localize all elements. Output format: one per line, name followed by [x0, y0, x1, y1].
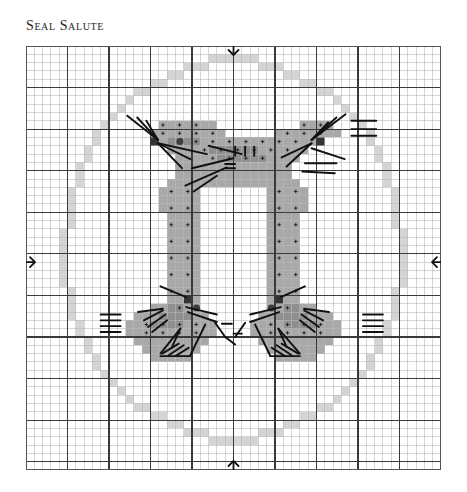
body-cell-medium [283, 295, 291, 303]
body-cell-dark [175, 312, 183, 320]
ring-cell [234, 437, 242, 445]
ring-cell [275, 428, 283, 436]
ring-cell [68, 196, 76, 204]
ring-cell [391, 312, 399, 320]
body-cell-medium [292, 246, 300, 254]
body-cell-medium [292, 354, 300, 362]
ring-cell [192, 428, 200, 436]
body-cell-medium [242, 171, 250, 179]
body-cell-medium [192, 287, 200, 295]
ring-cell [126, 96, 134, 104]
body-cell-medium [283, 262, 291, 270]
body-cell-medium [267, 212, 275, 220]
body-cell-medium [167, 262, 175, 270]
body-cell-medium [267, 279, 275, 287]
pattern-grid-svg [26, 46, 441, 470]
ring-cell [400, 279, 408, 287]
ring-cell [250, 437, 258, 445]
ring-cell [292, 420, 300, 428]
ring-cell [267, 428, 275, 436]
body-cell-black [317, 137, 325, 145]
body-cell-medium [283, 221, 291, 229]
body-cell-medium [250, 179, 258, 187]
ring-cell [151, 412, 159, 420]
ring-cell [308, 412, 316, 420]
ring-cell [350, 379, 358, 387]
ring-cell [242, 54, 250, 62]
body-cell-medium [292, 212, 300, 220]
body-cell-medium [184, 196, 192, 204]
body-cell-medium [192, 196, 200, 204]
ring-cell [242, 437, 250, 445]
ring-cell [151, 79, 159, 87]
ring-cell [225, 437, 233, 445]
body-cell-medium [159, 337, 167, 345]
ring-cell [350, 113, 358, 121]
body-cell-medium [267, 262, 275, 270]
body-cell-dark [167, 137, 175, 145]
body-cell-medium [325, 329, 333, 337]
body-cell-medium [275, 146, 283, 154]
body-cell-medium [225, 171, 233, 179]
body-cell-medium [242, 179, 250, 187]
ring-cell [366, 137, 374, 145]
ring-cell [391, 212, 399, 220]
ring-cell [76, 320, 84, 328]
ring-cell [209, 437, 217, 445]
ring-cell [300, 412, 308, 420]
body-cell-medium [184, 229, 192, 237]
ring-cell [142, 88, 150, 96]
ring-cell [366, 362, 374, 370]
body-cell-medium [258, 146, 266, 154]
body-cell-medium [250, 171, 258, 179]
ring-cell [68, 212, 76, 220]
body-cell-medium [184, 162, 192, 170]
pattern-grid[interactable] [26, 46, 441, 470]
body-cell-medium [267, 337, 275, 345]
ring-cell [317, 403, 325, 411]
ring-cell [192, 63, 200, 71]
body-cell-medium [300, 345, 308, 353]
ring-cell [59, 229, 67, 237]
ring-cell [59, 279, 67, 287]
body-cell-medium [283, 229, 291, 237]
body-cell-medium [333, 320, 341, 328]
ring-cell [383, 329, 391, 337]
ring-cell [391, 204, 399, 212]
body-cell-medium [267, 221, 275, 229]
body-cell-medium [167, 121, 175, 129]
body-cell-medium [258, 179, 266, 187]
body-cell-medium [300, 337, 308, 345]
body-cell-medium [192, 171, 200, 179]
body-cell-medium [242, 162, 250, 170]
body-cell-medium [192, 262, 200, 270]
body-cell-medium [325, 320, 333, 328]
ring-cell [68, 221, 76, 229]
ring-cell [366, 354, 374, 362]
body-cell-medium [192, 270, 200, 278]
ring-cell [341, 104, 349, 112]
ring-cell [84, 146, 92, 154]
body-cell-medium [167, 129, 175, 137]
body-cell-medium [333, 329, 341, 337]
body-cell-medium [283, 254, 291, 262]
ring-cell [159, 412, 167, 420]
body-cell-medium [308, 337, 316, 345]
body-cell-medium [267, 179, 275, 187]
ring-cell [325, 403, 333, 411]
body-cell-medium [275, 162, 283, 170]
ring-cell [184, 428, 192, 436]
body-cell-medium [275, 196, 283, 204]
body-cell-medium [283, 187, 291, 195]
ring-cell [92, 129, 100, 137]
body-cell-medium [192, 237, 200, 245]
ring-cell [325, 88, 333, 96]
body-cell-medium [142, 337, 150, 345]
body-cell-medium [200, 137, 208, 145]
body-cell-dark [167, 320, 175, 328]
body-cell-medium [175, 279, 183, 287]
body-cell-medium [184, 262, 192, 270]
body-cell-medium [159, 204, 167, 212]
body-cell-medium [234, 171, 242, 179]
cross-stitch-chart-page: Seal Salute [0, 0, 467, 492]
